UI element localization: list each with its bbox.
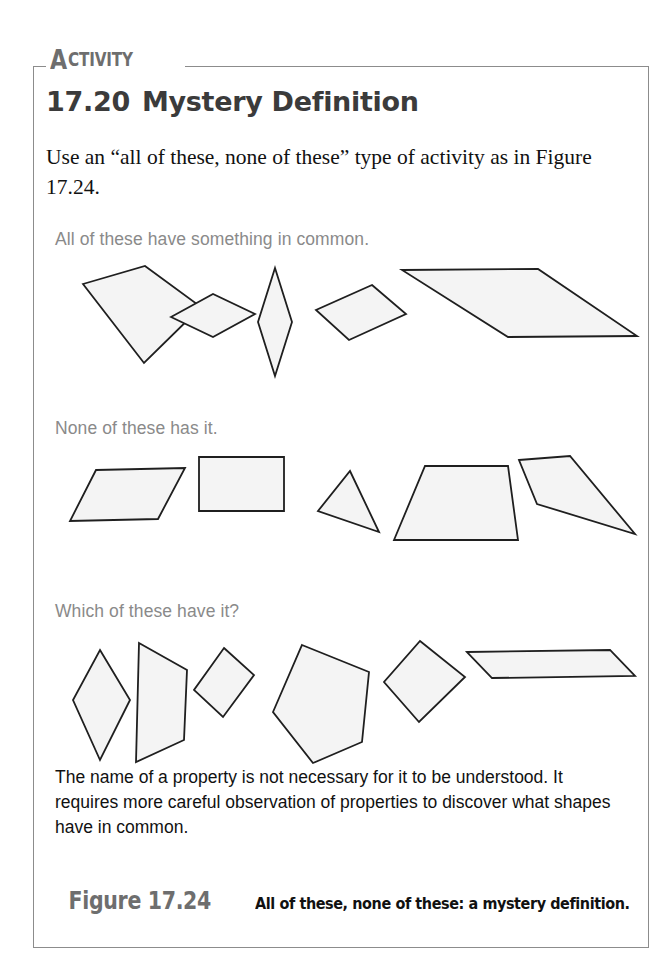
section-label-none-of-these: None of these has it. bbox=[55, 418, 218, 439]
figure-caption-text: All of these, none of these: a mystery d… bbox=[255, 894, 630, 914]
page-title: 17.20Mystery Definition bbox=[46, 86, 419, 118]
page-root: A CTIVITY 17.20Mystery Definition Use an… bbox=[0, 0, 670, 971]
figure-number: Figure 17.24 bbox=[69, 888, 211, 914]
section-label-which-of-these: Which of these have it? bbox=[55, 601, 239, 622]
section-label-all-of-these: All of these have something in common. bbox=[55, 229, 369, 250]
closing-paragraph: The name of a property is not necessary … bbox=[55, 765, 620, 840]
activity-banner-label: CTIVITY bbox=[68, 50, 133, 69]
activity-title: Mystery Definition bbox=[142, 86, 419, 117]
activity-banner-initial: A bbox=[50, 46, 66, 73]
activity-number: 17.20 bbox=[46, 86, 130, 117]
intro-paragraph: Use an “all of these, none of these” typ… bbox=[46, 142, 606, 202]
figure-caption: Figure 17.24 All of these, none of these… bbox=[53, 888, 643, 914]
activity-banner: A CTIVITY bbox=[50, 45, 149, 73]
